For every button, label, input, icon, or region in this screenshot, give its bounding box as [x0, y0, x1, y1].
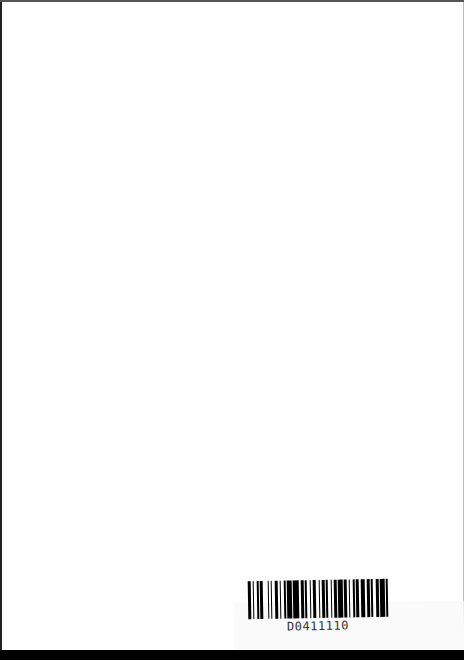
page-left-edge — [0, 2, 2, 652]
barcode-bar — [386, 579, 388, 617]
scan-bottom-edge — [0, 650, 464, 660]
barcode — [248, 579, 389, 619]
barcode-number: D0411110 — [287, 618, 349, 633]
